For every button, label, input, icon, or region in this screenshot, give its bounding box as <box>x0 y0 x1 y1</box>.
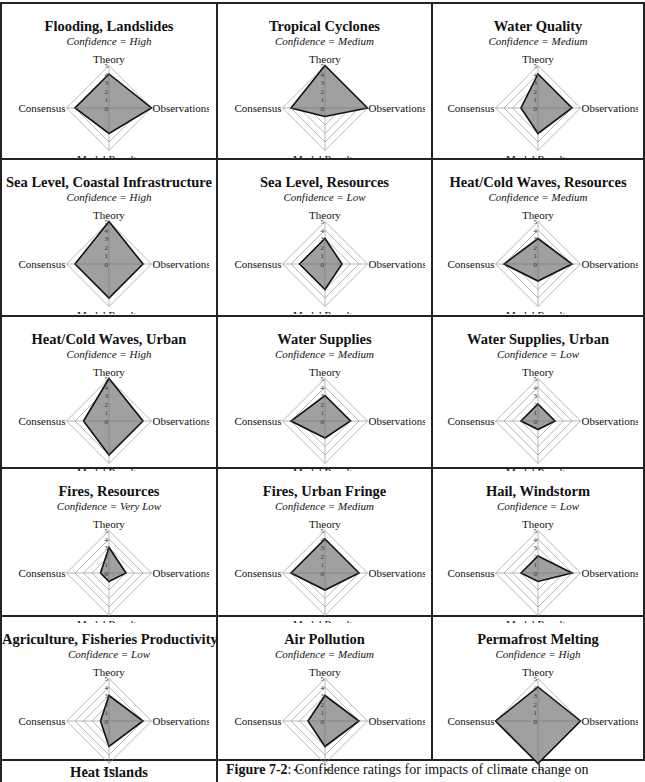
axis-label: Observations <box>368 415 425 427</box>
panel: Permafrost MeltingConfidence = High01234… <box>433 617 645 759</box>
radar-data-polygon <box>75 74 152 134</box>
axis-label: Observations <box>582 102 639 114</box>
axis-label: Consensus <box>18 415 65 427</box>
grid-row: Agriculture, Fisheries ProductivityConfi… <box>0 617 645 761</box>
axis-label: Observations <box>368 102 425 114</box>
axis-label: Theory <box>522 53 554 65</box>
axis-label: Consensus <box>447 415 494 427</box>
axis-label: Observations <box>153 567 210 579</box>
panel-title: Flooding, Landslides <box>2 18 216 34</box>
radar-chart: 012345TheoryObservationsModel ResultsCon… <box>225 204 425 314</box>
panel: Tropical CyclonesConfidence = Medium0123… <box>218 4 433 158</box>
confidence-label: Confidence = Low <box>218 190 431 204</box>
svg-text:1: 1 <box>105 709 109 717</box>
grid-row: Sea Level, Coastal InfrastructureConfide… <box>0 160 645 317</box>
svg-text:4: 4 <box>105 227 109 235</box>
radar-data-polygon <box>291 66 368 117</box>
panel: Fires, ResourcesConfidence = Very Low012… <box>0 469 218 615</box>
panel-title: Water Quality <box>433 18 643 34</box>
svg-text:3: 3 <box>320 79 324 87</box>
axis-label: Theory <box>309 518 341 530</box>
axis-label: Theory <box>522 209 554 221</box>
svg-text:1: 1 <box>320 409 324 417</box>
panel: Heat/Cold Waves, ResourcesConfidence = M… <box>433 160 645 315</box>
confidence-label: Confidence = Very Low <box>2 499 216 513</box>
axis-label: Theory <box>93 209 125 221</box>
panel-title: Heat/Cold Waves, Urban <box>2 331 216 347</box>
axis-label: Theory <box>93 53 125 65</box>
axis-label: Theory <box>309 209 341 221</box>
axis-label: Observations <box>153 258 210 270</box>
svg-text:4: 4 <box>534 71 538 79</box>
panel: Fires, Urban FringeConfidence = Medium01… <box>218 469 433 615</box>
axis-label: Theory <box>93 666 125 678</box>
svg-text:0: 0 <box>534 105 538 113</box>
axis-label: Consensus <box>234 102 281 114</box>
axis-label: Theory <box>522 666 554 678</box>
svg-text:0: 0 <box>105 718 109 726</box>
svg-text:2: 2 <box>320 553 324 561</box>
svg-text:3: 3 <box>105 544 109 552</box>
panel: Water SuppliesConfidence = Medium012345T… <box>218 317 433 467</box>
axis-label: Consensus <box>18 715 65 727</box>
svg-text:4: 4 <box>320 536 324 544</box>
panel: Water Supplies, UrbanConfidence = Low012… <box>433 317 645 467</box>
svg-text:1: 1 <box>105 96 109 104</box>
radar-data-polygon <box>521 556 572 582</box>
confidence-label: Confidence = High <box>2 347 216 361</box>
axis-label: Consensus <box>18 102 65 114</box>
grid-row: Fires, ResourcesConfidence = Very Low012… <box>0 469 645 617</box>
radar-chart: 012345TheoryObservationsModel ResultsCon… <box>9 361 209 471</box>
panel: Sea Level, Coastal InfrastructureConfide… <box>0 160 218 315</box>
panel: Air PollutionConfidence = Medium012345Th… <box>218 617 433 759</box>
svg-text:3: 3 <box>534 692 538 700</box>
axis-label: Observations <box>153 102 210 114</box>
radar-chart: 012345TheoryObservationsModel ResultsCon… <box>438 48 638 158</box>
svg-text:1: 1 <box>105 252 109 260</box>
svg-text:1: 1 <box>534 252 538 260</box>
svg-text:4: 4 <box>105 536 109 544</box>
svg-text:2: 2 <box>105 401 109 409</box>
axis-label: Consensus <box>447 258 494 270</box>
svg-text:0: 0 <box>320 261 324 269</box>
axis-label: Consensus <box>447 102 494 114</box>
confidence-label: Confidence = Medium <box>218 499 431 513</box>
svg-text:3: 3 <box>105 692 109 700</box>
radar-chart: 012345TheoryObservationsModel ResultsCon… <box>9 513 209 623</box>
svg-text:3: 3 <box>105 79 109 87</box>
confidence-label: Confidence = Medium <box>433 34 643 48</box>
svg-text:2: 2 <box>320 701 324 709</box>
svg-text:2: 2 <box>105 553 109 561</box>
panel-title: Water Supplies <box>218 331 431 347</box>
panel-title: Permafrost Melting <box>433 631 643 647</box>
panel-title: Air Pollution <box>218 631 431 647</box>
svg-text:0: 0 <box>534 261 538 269</box>
axis-label: Theory <box>522 518 554 530</box>
figure-caption: Figure 7-2: Confidence ratings for impac… <box>218 752 588 782</box>
svg-text:4: 4 <box>105 684 109 692</box>
panel-title: Heat/Cold Waves, Resources <box>433 174 643 190</box>
svg-text:0: 0 <box>320 570 324 578</box>
axis-label: Consensus <box>234 258 281 270</box>
svg-text:3: 3 <box>320 392 324 400</box>
axis-label: Consensus <box>447 715 494 727</box>
svg-text:4: 4 <box>534 384 538 392</box>
panel-title: Fires, Urban Fringe <box>218 483 431 499</box>
svg-text:4: 4 <box>534 227 538 235</box>
svg-text:2: 2 <box>534 701 538 709</box>
axis-label: Consensus <box>234 567 281 579</box>
svg-text:4: 4 <box>320 71 324 79</box>
confidence-label: Confidence = Medium <box>433 190 643 204</box>
axis-label: Observations <box>582 715 639 727</box>
radar-chart: 012345TheoryObservationsModel ResultsCon… <box>438 204 638 314</box>
confidence-label: Confidence = Low <box>433 499 643 513</box>
svg-text:0: 0 <box>105 570 109 578</box>
svg-text:3: 3 <box>534 235 538 243</box>
svg-text:4: 4 <box>105 71 109 79</box>
svg-text:2: 2 <box>105 244 109 252</box>
svg-text:0: 0 <box>534 418 538 426</box>
axis-label: Observations <box>582 258 639 270</box>
axis-label: Model Results <box>77 153 141 159</box>
svg-text:0: 0 <box>105 261 109 269</box>
confidence-label: Confidence = Medium <box>218 647 431 661</box>
